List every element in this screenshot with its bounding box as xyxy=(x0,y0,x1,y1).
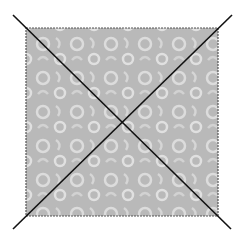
diagram-canvas xyxy=(0,0,241,230)
